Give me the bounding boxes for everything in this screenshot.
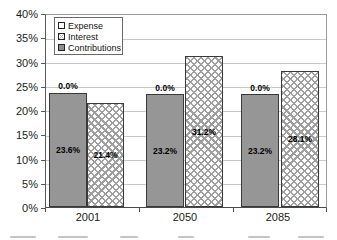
y-tick-label-5: 5%: [2, 178, 38, 190]
y-tick-label-0: 0%: [2, 202, 38, 214]
legend-item-interest: Interest: [58, 31, 122, 42]
expense-zero-label-2050: 0.0%: [145, 83, 185, 93]
cropped-caption-fragment: [298, 236, 324, 238]
x-category-label-2050: 2050: [163, 211, 207, 223]
legend-swatch-interest: [58, 33, 65, 40]
bar-interest-2050: 31.2%: [185, 56, 223, 207]
cropped-caption-fragment: [178, 236, 194, 238]
bar-contributions-2001: 23.6%: [49, 93, 87, 207]
legend-label: Interest: [68, 32, 98, 42]
bar-value-label: 21.4%: [93, 150, 117, 160]
x-category-label-2085: 2085: [256, 211, 300, 223]
bar-value-label: 28.1%: [288, 134, 312, 144]
y-tick-label-30: 30%: [2, 57, 38, 69]
legend-item-contributions: Contributions: [58, 42, 122, 53]
expense-zero-label-2001: 0.0%: [48, 81, 88, 91]
y-tick-label-25: 25%: [2, 81, 38, 93]
bar-contributions-2050: 23.2%: [146, 94, 184, 207]
x-tick-mark: [326, 208, 327, 212]
bar-interest-2085: 28.1%: [281, 71, 319, 207]
bar-value-label: 23.2%: [248, 146, 272, 156]
bar-value-label: 23.2%: [153, 146, 177, 156]
expense-zero-label-2085: 0.0%: [240, 83, 280, 93]
bar-value-label: 23.6%: [56, 145, 80, 155]
bar-contributions-2085: 23.2%: [241, 94, 279, 207]
y-tick-label-15: 15%: [2, 129, 38, 141]
cropped-caption-fragment: [10, 236, 36, 238]
cropped-caption-fragment: [248, 236, 270, 238]
x-category-label-2001: 2001: [66, 211, 110, 223]
legend-label: Contributions: [68, 43, 121, 53]
cropped-caption-fragment: [120, 236, 138, 238]
bar-value-label: 31.2%: [192, 127, 216, 137]
x-tick-mark: [139, 208, 140, 212]
legend-swatch-expense: [58, 22, 65, 29]
x-tick-mark: [45, 208, 46, 212]
y-tick-label-40: 40%: [2, 8, 38, 20]
x-tick-mark: [233, 208, 234, 212]
legend: Expense Interest Contributions: [54, 17, 123, 55]
y-tick-label-20: 20%: [2, 105, 38, 117]
y-tick-label-35: 35%: [2, 32, 38, 44]
y-tick-label-10: 10%: [2, 154, 38, 166]
chart-figure: 40% 35% 30% 25% 20% 15% 10% 5% 0% 23.6% …: [0, 0, 337, 240]
legend-item-expense: Expense: [58, 20, 122, 31]
bar-interest-2001: 21.4%: [87, 103, 124, 207]
cropped-caption-fragment: [58, 236, 88, 238]
legend-swatch-contributions: [58, 44, 65, 51]
legend-label: Expense: [68, 21, 103, 31]
